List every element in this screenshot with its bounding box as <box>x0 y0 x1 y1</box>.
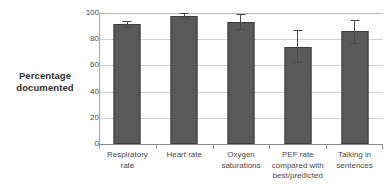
x-axis-label-line: compared with <box>269 161 326 172</box>
x-axis-label-line: Heart rate <box>156 150 213 161</box>
x-axis-label-line: rate <box>99 161 156 172</box>
y-tick-label: 100 <box>75 9 99 17</box>
error-bar-cap-top <box>236 14 245 15</box>
x-tick-mark <box>382 145 383 149</box>
error-bar <box>350 20 359 45</box>
y-tick-label: 60 <box>75 61 99 69</box>
error-bar-cap-bottom <box>350 43 359 44</box>
x-axis-label: Heart rate <box>156 150 213 161</box>
x-tick-mark <box>269 145 270 149</box>
error-bar-cap-bottom <box>123 27 132 28</box>
bar <box>341 31 368 144</box>
x-axis-label-line: Talking in <box>326 150 383 161</box>
bar-group <box>326 13 383 144</box>
x-axis-label: PEF ratecompared withbest/predicted <box>269 150 326 182</box>
error-bar-cap-bottom <box>236 29 245 30</box>
error-bar <box>236 14 245 30</box>
error-bar-cap-top <box>350 20 359 21</box>
x-axis-label-line: PEF rate <box>269 150 326 161</box>
bar <box>114 24 141 144</box>
error-bar-cap-top <box>123 21 132 22</box>
bar <box>227 22 254 144</box>
error-bar-cap-bottom <box>293 62 302 63</box>
chart-title-cropped <box>99 0 383 5</box>
x-tick-mark <box>156 145 157 149</box>
bar <box>171 16 198 144</box>
x-axis-label: Oxygensaturations <box>213 150 270 171</box>
error-bar <box>293 30 302 63</box>
y-tick-label: 0 <box>75 140 99 148</box>
error-bar-stem <box>240 14 241 30</box>
x-axis-label-line: sentences <box>326 161 383 172</box>
y-tick-label: 80 <box>75 35 99 43</box>
error-bar <box>180 13 189 18</box>
error-bar-stem <box>354 20 355 45</box>
x-axis-label-line: Respiratory <box>99 150 156 161</box>
bar-chart: Percentage documented 100 80 60 40 20 0 <box>0 0 384 196</box>
x-axis-label-line: saturations <box>213 161 270 172</box>
bar-group <box>213 13 270 144</box>
error-bar <box>123 21 132 28</box>
plot-area <box>99 13 383 145</box>
x-axis-label-line: Oxygen <box>213 150 270 161</box>
x-tick-mark <box>326 145 327 149</box>
x-tick-mark <box>213 145 214 149</box>
x-axis-label: Respiratoryrate <box>99 150 156 171</box>
x-axis-label-line: best/predicted <box>269 171 326 182</box>
error-bar-stem <box>297 30 298 63</box>
x-axis-label: Talking insentences <box>326 150 383 171</box>
error-bar-cap-top <box>180 13 189 14</box>
error-bar-cap-bottom <box>180 17 189 18</box>
bar-group <box>269 13 326 144</box>
y-tick-label: 20 <box>75 114 99 122</box>
x-tick-mark <box>99 145 100 149</box>
bar-group <box>156 13 213 144</box>
bar-group <box>99 13 156 144</box>
y-tick-label: 40 <box>75 88 99 96</box>
error-bar-cap-top <box>293 30 302 31</box>
x-axis-labels: RespiratoryrateHeart rateOxygensaturatio… <box>99 150 383 196</box>
y-axis-ticks: 100 80 60 40 20 0 <box>72 13 99 145</box>
bars-layer <box>99 13 383 145</box>
